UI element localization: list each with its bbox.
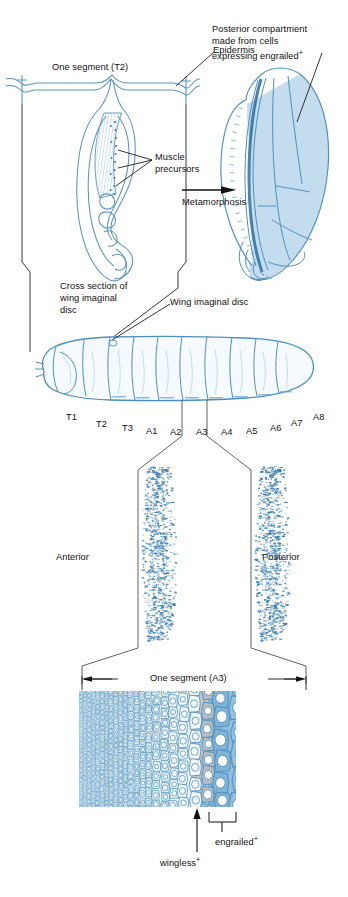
larva-segment-label-a5: A5: [246, 426, 257, 436]
expressing-word: expressing: [212, 51, 260, 61]
engrailed-plus-superscript: +: [299, 49, 303, 57]
engrailed-gene-name: engrailed: [260, 51, 299, 61]
cross-section-label-line3: disc: [60, 305, 77, 316]
wingless-arrow: [193, 808, 200, 852]
wingless-label: wingless+: [160, 855, 200, 870]
one-segment-t2-label: One segment (T2): [52, 62, 128, 73]
engrailed-plus-superscript-bottom: +: [254, 835, 258, 843]
engrailed-gene-name-bottom: engrailed: [215, 837, 254, 847]
larva-segment-label-a6: A6: [270, 423, 281, 433]
posterior-compartment-caption-line1: Posterior compartment: [212, 24, 307, 35]
larva-segment-label-a3: A3: [196, 427, 207, 437]
larva-segment-label-a2: A2: [170, 427, 181, 437]
posterior-label: Posterior: [262, 552, 300, 563]
larva-drawing: [35, 336, 314, 401]
muscle-precursors-hatching: [95, 113, 122, 198]
larva-segment-label-t3: T3: [122, 423, 133, 433]
larva-segment-label-t2: T2: [96, 419, 107, 429]
muscle-precursors-label-line1: Muscle: [155, 152, 185, 163]
posterior-compartment-caption-line2: made from cells: [212, 36, 278, 47]
larva-segment-label-a7: A7: [291, 418, 302, 428]
cell-mosaic-cells: [79, 674, 251, 817]
wing-imaginal-disc-leader: [112, 304, 170, 340]
cross-section-label-line2: wing imaginal: [60, 293, 117, 304]
cross-section-label-line1: Cross section of: [60, 281, 127, 292]
larva-segment-label-a8: A8: [313, 412, 324, 422]
denticle-belt-anterior: [142, 466, 179, 642]
wing-imaginal-disc-label: Wing imaginal disc: [170, 297, 248, 308]
wingless-gene-name: wingless: [160, 858, 196, 868]
engrailed-label: engrailed+: [215, 834, 258, 849]
anterior-label: Anterior: [56, 552, 89, 563]
diagram-canvas: [0, 0, 348, 897]
epidermis-drawing: [6, 75, 200, 108]
figure-root: One segment (T2) Epidermis Muscle precur…: [0, 0, 348, 897]
engrailed-bracket: [209, 812, 236, 832]
larva-segment-label-a4: A4: [221, 427, 232, 437]
one-segment-a3-label: One segment (A3): [147, 673, 230, 684]
wingless-plus-superscript: +: [196, 856, 200, 864]
adult-wing-drawing: [221, 68, 329, 281]
muscle-precursors-label-line2: precursors: [155, 164, 199, 175]
posterior-compartment-caption-line3: expressing engrailed+: [212, 48, 303, 63]
metamorphosis-label: Metamorphosis: [182, 197, 246, 208]
larva-segment-label-t1: T1: [66, 412, 77, 422]
larva-segment-label-a1: A1: [146, 426, 157, 436]
